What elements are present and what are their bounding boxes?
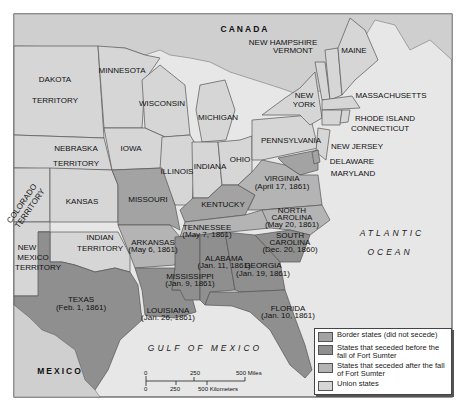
label-new-mexico-3: TERRITORY xyxy=(15,263,62,272)
label-connecticut: CONNECTICUT xyxy=(351,124,409,133)
label-tennessee-date: (May 7, 1861) xyxy=(182,230,232,239)
scale-km-500: 500 Kilometers xyxy=(198,386,238,392)
label-north-carolina-date: (May 20, 1861) xyxy=(265,220,319,229)
label-new-mexico-2: MEXICO xyxy=(17,253,49,262)
label-ohio: OHIO xyxy=(230,155,250,164)
label-mexico: MEXICO xyxy=(37,366,83,376)
label-maryland: MARYLAND xyxy=(331,169,376,178)
label-gulf: GULF OF MEXICO xyxy=(148,343,262,353)
label-ocean: OCEAN xyxy=(367,247,412,257)
label-pennsylvania: PENNSYLVANIA xyxy=(261,136,322,145)
legend-item-after: States that seceded after the fall of Fo… xyxy=(318,362,448,378)
label-delaware: DELAWARE xyxy=(330,157,374,166)
label-louisiana-date: (Jan. 26, 1861) xyxy=(141,313,195,322)
label-vermont: VERMONT xyxy=(273,46,313,55)
legend-item-union: Union states xyxy=(318,380,448,391)
label-dakota-territory: TERRITORY xyxy=(32,96,79,105)
label-texas-date: (Feb. 1, 1861) xyxy=(56,303,107,312)
label-georgia-date: (Jan. 19, 1861) xyxy=(236,269,290,278)
state-rhode-island xyxy=(340,110,350,123)
label-wisconsin: WISCONSIN xyxy=(139,99,185,108)
label-massachusetts: MASSACHUSETTS xyxy=(355,91,426,100)
label-florida-date: (Jan. 10, 1861) xyxy=(261,311,315,320)
legend-label: States that seceded before the fall of F… xyxy=(337,344,448,360)
label-michigan: MICHIGAN xyxy=(198,113,238,122)
label-illinois: ILLINOIS xyxy=(161,167,194,176)
legend-label: States that seceded after the fall of Fo… xyxy=(337,362,448,378)
label-nebraska-territory: TERRITORY xyxy=(53,159,100,168)
label-mississippi-date: (Jan. 9, 1861) xyxy=(165,279,215,288)
label-new-mexico-1: NEW xyxy=(18,243,37,252)
label-iowa: IOWA xyxy=(120,144,142,153)
scale-miles-500: 500 Miles xyxy=(236,370,262,376)
legend-swatch xyxy=(318,345,333,355)
legend-label: Union states xyxy=(337,380,379,388)
label-south-carolina-date: (Dec. 20, 1860) xyxy=(262,245,317,254)
legend-swatch xyxy=(318,332,333,342)
label-atlantic: ATLANTIC xyxy=(359,228,424,238)
label-indiana: INDIANA xyxy=(194,162,227,171)
legend-label: Border states (did not secede) xyxy=(337,331,437,339)
label-new: NEW xyxy=(295,91,314,100)
legend-item-before: States that seceded before the fall of F… xyxy=(318,344,448,360)
label-dakota: DAKOTA xyxy=(39,75,72,84)
label-canada: CANADA xyxy=(221,24,270,34)
label-kansas: KANSAS xyxy=(66,197,98,206)
label-rhode-island: RHODE ISLAND xyxy=(355,114,415,123)
scale-miles-250: 250 xyxy=(190,370,201,376)
legend-swatch xyxy=(318,381,333,391)
label-indian-territory: TERRITORY xyxy=(77,244,124,253)
label-virginia-date: (April 17, 1861) xyxy=(255,182,310,191)
state-kansas xyxy=(50,168,118,222)
state-connecticut xyxy=(322,110,342,125)
label-maine: MAINE xyxy=(341,46,366,55)
label-minnesota: MINNESOTA xyxy=(99,66,147,75)
state-dakota-territory xyxy=(14,46,104,138)
legend-item-border: Border states (did not secede) xyxy=(318,331,448,342)
label-kentucky: KENTUCKY xyxy=(201,200,245,209)
label-york: YORK xyxy=(293,100,316,109)
label-new-jersey: NEW JERSEY xyxy=(331,142,384,151)
label-indian: INDIAN xyxy=(86,233,113,242)
label-nebraska: NEBRASKA xyxy=(54,144,98,153)
label-missouri: MISSOURI xyxy=(128,195,168,204)
label-arkansas-date: (May 6, 1861) xyxy=(128,245,178,254)
legend-swatch xyxy=(318,363,333,373)
scale-km-250: 250 xyxy=(170,386,181,392)
map-legend: Border states (did not secede) States th… xyxy=(314,328,452,395)
